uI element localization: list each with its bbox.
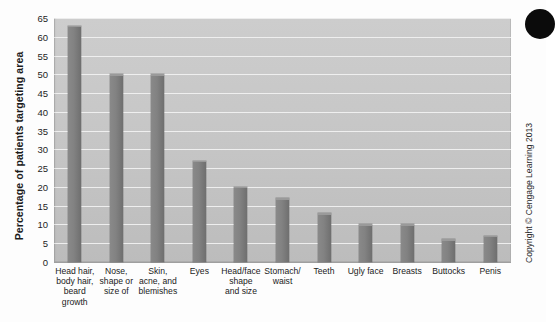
- bar-top-highlight: [110, 74, 123, 76]
- gridline-0: [54, 262, 511, 263]
- bar: [318, 213, 331, 262]
- plot-area: [54, 18, 511, 262]
- y-tick-15: 15: [22, 201, 48, 212]
- bar-top-highlight: [359, 224, 372, 226]
- bar-top-highlight: [68, 26, 81, 28]
- y-tick-55: 55: [22, 51, 48, 62]
- bar: [234, 187, 247, 262]
- bar-top-highlight: [484, 236, 497, 238]
- bar: [484, 236, 497, 262]
- bar: [193, 161, 206, 262]
- y-tick-60: 60: [22, 32, 48, 43]
- x-tick-label-line: Penis: [463, 266, 517, 276]
- bar: [401, 224, 414, 262]
- x-tick-label-line: acne, and: [131, 276, 185, 286]
- bar: [442, 239, 455, 262]
- bar-top-highlight: [442, 239, 455, 241]
- bar: [151, 74, 164, 262]
- y-tick-35: 35: [22, 126, 48, 137]
- y-tick-5: 5: [22, 238, 48, 249]
- copyright-notice: Copyright © Cengage Learning 2013: [524, 93, 534, 293]
- y-tick-10: 10: [22, 219, 48, 230]
- bar: [359, 224, 372, 262]
- x-tick-label-line: growth: [48, 297, 102, 307]
- y-tick-25: 25: [22, 163, 48, 174]
- y-axis-title: Percentage of patients targeting area: [13, 26, 25, 266]
- x-tick-label-line: blemishes: [131, 286, 185, 296]
- y-tick-0: 0: [22, 257, 48, 268]
- bar-top-highlight: [318, 213, 331, 215]
- bar-top-highlight: [193, 161, 206, 163]
- bar-top-highlight: [234, 187, 247, 189]
- bar-top-highlight: [276, 198, 289, 200]
- y-tick-40: 40: [22, 107, 48, 118]
- bar: [110, 74, 123, 262]
- x-tick-label-line: waist: [256, 276, 310, 286]
- bar-top-highlight: [401, 224, 414, 226]
- y-tick-45: 45: [22, 88, 48, 99]
- y-tick-65: 65: [22, 13, 48, 24]
- bar: [276, 198, 289, 262]
- plot-background: [54, 18, 511, 262]
- y-tick-30: 30: [22, 144, 48, 155]
- y-tick-50: 50: [22, 69, 48, 80]
- gridline-55: [54, 56, 511, 57]
- gridline-60: [54, 37, 511, 38]
- x-tick-label-line: and size: [214, 286, 268, 296]
- bar-top-highlight: [151, 74, 164, 76]
- gridline-65: [54, 18, 511, 19]
- filled-circle-icon: [525, 9, 555, 39]
- y-tick-20: 20: [22, 182, 48, 193]
- x-tick-label: Penis: [463, 266, 517, 276]
- bar: [68, 26, 81, 262]
- x-axis-tick-labels: Head hair,body hair,beardgrowthNose,shap…: [54, 266, 511, 318]
